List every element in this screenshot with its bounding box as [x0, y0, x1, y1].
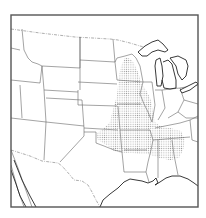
great-lakes	[138, 40, 198, 93]
baja-coastline	[14, 160, 36, 207]
gulf-coastline	[100, 176, 198, 207]
range-map	[0, 0, 206, 218]
lake-michigan	[155, 58, 163, 86]
mexico-border	[11, 150, 100, 207]
canada-border	[11, 29, 148, 48]
map-frame	[11, 15, 198, 207]
pacific-coastline	[11, 170, 26, 207]
state-boundaries	[11, 29, 198, 207]
michigan-outline	[162, 60, 176, 89]
lake-superior	[138, 40, 168, 56]
shaded-range-area	[96, 58, 185, 160]
map-svg	[0, 0, 206, 218]
